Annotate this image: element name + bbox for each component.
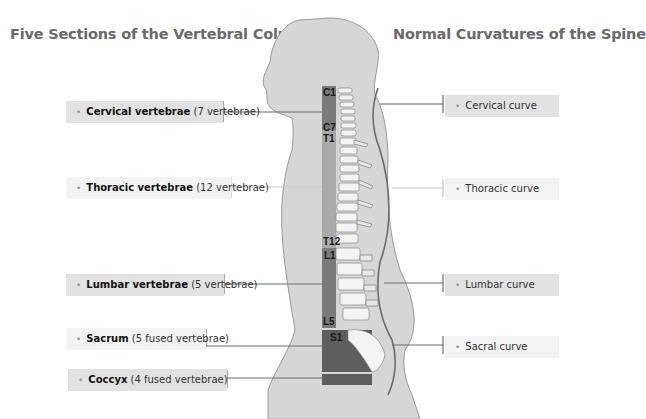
marker-t12: T12	[323, 236, 341, 247]
marker-l1: L1	[324, 250, 336, 261]
bullet-icon: •	[455, 280, 460, 290]
section-note: (5 vertebrae)	[191, 279, 257, 290]
section-note: (7 vertebrae)	[194, 106, 260, 117]
label-coccyx: •Coccyx (4 fused vertebrae)	[68, 369, 227, 391]
thoracic-bar	[322, 130, 336, 248]
bullet-icon: •	[455, 101, 460, 111]
bullet-icon: •	[76, 334, 81, 344]
bullet-icon: •	[76, 183, 81, 193]
coccyx-bar	[322, 374, 372, 385]
bullet-icon: •	[76, 280, 81, 290]
section-note: (12 vertebrae)	[196, 182, 269, 193]
label-cervical-curve: •Cervical curve	[445, 95, 559, 117]
marker-c7: C7	[323, 122, 336, 133]
marker-t1: T1	[323, 133, 335, 144]
marker-s1: S1	[330, 332, 343, 343]
curve-name: Thoracic curve	[465, 183, 539, 194]
curve-name: Lumbar curve	[465, 279, 534, 290]
section-name: Coccyx	[88, 374, 127, 385]
label-thoracic-vertebrae: •Thoracic vertebrae (12 vertebrae)	[66, 177, 231, 199]
section-name: Cervical vertebrae	[86, 106, 190, 117]
section-name: Sacrum	[86, 333, 128, 344]
section-name: Thoracic vertebrae	[86, 182, 193, 193]
section-name: Lumbar vertebrae	[86, 279, 188, 290]
label-sacrum: •Sacrum (5 fused vertebrae)	[66, 328, 206, 350]
bullet-icon: •	[455, 184, 460, 194]
bullet-icon: •	[76, 107, 81, 117]
label-sacral-curve: •Sacral curve	[445, 336, 559, 358]
label-cervical-vertebrae: •Cervical vertebrae (7 vertebrae)	[66, 101, 223, 123]
marker-l5: L5	[323, 316, 335, 327]
curve-name: Sacral curve	[465, 341, 527, 352]
label-lumbar-curve: •Lumbar curve	[445, 274, 559, 296]
label-thoracic-curve: •Thoracic curve	[445, 178, 559, 200]
section-note: (5 fused vertebrae)	[132, 333, 229, 344]
marker-c1: C1	[323, 87, 336, 98]
section-note: (4 fused vertebrae)	[131, 374, 228, 385]
label-lumbar-vertebrae: •Lumbar vertebrae (5 vertebrae)	[66, 274, 224, 296]
bullet-icon: •	[455, 342, 460, 352]
bullet-icon: •	[78, 375, 83, 385]
curve-name: Cervical curve	[465, 100, 537, 111]
